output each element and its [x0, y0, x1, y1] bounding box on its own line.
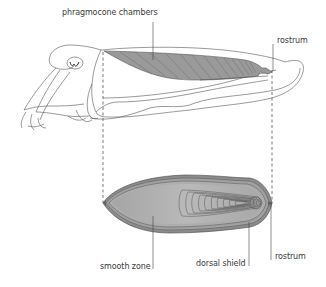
label-rostrum-bottom: rostrum [275, 252, 306, 262]
cuttlefish-diagram: phragmocone chambers rostrum smooth zone… [0, 0, 326, 287]
label-smooth-zone: smooth zone [100, 262, 151, 272]
phragmocone-chambers-shape [104, 51, 272, 80]
label-dorsal-shield: dorsal shield [196, 259, 245, 269]
label-rostrum-top: rostrum [277, 36, 308, 46]
label-phragmocone-chambers: phragmocone chambers [62, 8, 158, 18]
cuttlebone-dorsal-view [103, 175, 272, 233]
